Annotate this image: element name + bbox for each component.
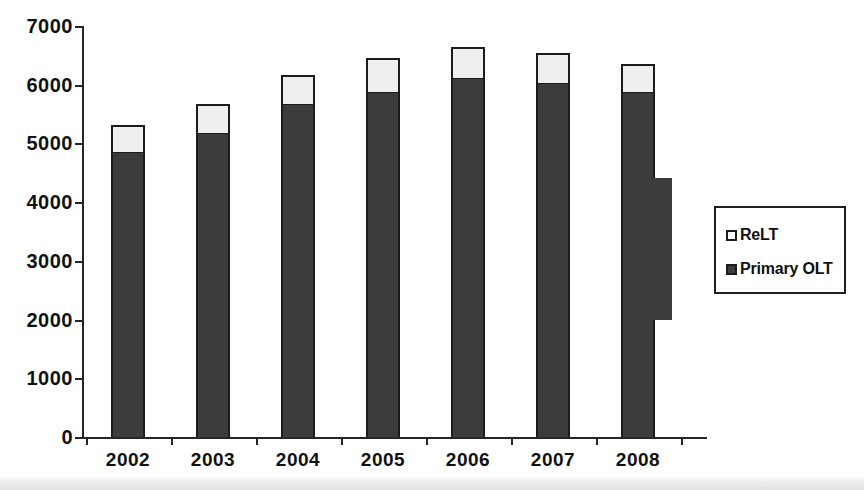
bar-chart: 70006000500040003000200010000 2002200320…	[0, 0, 864, 490]
x-tick-mark	[681, 437, 683, 445]
bar-segment-primary-olt	[196, 133, 230, 437]
bar-segment-relt	[536, 53, 570, 83]
x-axis-label-2007: 2007	[531, 449, 575, 471]
x-tick-mark	[511, 437, 513, 445]
bar-2002	[111, 125, 145, 437]
legend-label-relt: ReLT	[740, 226, 778, 244]
legend-item-primary-olt: Primary OLT	[726, 252, 844, 286]
chart-legend: ReLT Primary OLT	[714, 206, 846, 294]
x-axis-label-2005: 2005	[361, 449, 405, 471]
y-tick-mark	[75, 202, 82, 204]
x-tick-mark	[86, 437, 88, 445]
x-axis-line	[82, 437, 707, 439]
y-tick-label: 0	[61, 426, 73, 449]
legend-item-relt: ReLT	[726, 218, 844, 252]
x-axis-label-2003: 2003	[191, 449, 235, 471]
plot-area	[82, 26, 702, 437]
legend-swatch-relt-icon	[726, 230, 737, 241]
scan-artifact-left-edge	[0, 0, 5, 455]
bar-segment-primary-olt	[536, 83, 570, 437]
bar-segment-primary-olt	[451, 78, 485, 437]
y-tick-label: 1000	[27, 367, 74, 390]
y-tick-mark	[75, 85, 82, 87]
bar-segment-relt	[621, 64, 655, 92]
y-tick-mark	[75, 26, 82, 28]
x-tick-mark	[256, 437, 258, 445]
y-tick-label: 7000	[27, 15, 74, 38]
y-tick-mark	[75, 320, 82, 322]
y-tick-label: 3000	[27, 249, 74, 272]
bar-2006	[451, 47, 485, 437]
y-tick-mark	[75, 261, 82, 263]
y-tick-label: 6000	[27, 73, 74, 96]
bar-2004	[281, 75, 315, 437]
bar-2003	[196, 104, 230, 437]
y-tick-mark	[75, 378, 82, 380]
x-tick-mark	[341, 437, 343, 445]
x-tick-mark	[596, 437, 598, 445]
x-tick-mark	[426, 437, 428, 445]
y-tick-mark	[75, 437, 82, 439]
y-tick-label: 5000	[27, 132, 74, 155]
bar-segment-relt	[366, 58, 400, 92]
y-tick-label: 4000	[27, 191, 74, 214]
bar-segment-primary-olt	[366, 92, 400, 437]
bar-segment-relt	[451, 47, 485, 78]
bar-segment-relt	[281, 75, 315, 103]
y-tick-mark	[75, 143, 82, 145]
bar-segment-relt	[111, 125, 145, 153]
scan-artifact-bottom-strip	[0, 476, 864, 490]
bar-segment-relt	[196, 104, 230, 133]
x-axis-label-2002: 2002	[106, 449, 150, 471]
scan-artifact-dark-band	[650, 178, 672, 320]
legend-label-primary-olt: Primary OLT	[740, 260, 833, 278]
bar-2005	[366, 58, 400, 437]
x-axis-label-2006: 2006	[446, 449, 490, 471]
bar-segment-primary-olt	[281, 104, 315, 437]
bar-segment-primary-olt	[111, 152, 145, 437]
legend-swatch-primary-olt-icon	[726, 264, 737, 275]
bar-2007	[536, 53, 570, 437]
x-tick-mark	[171, 437, 173, 445]
x-axis-label-2004: 2004	[276, 449, 320, 471]
y-tick-label: 2000	[27, 308, 74, 331]
x-axis-label-2008: 2008	[616, 449, 660, 471]
